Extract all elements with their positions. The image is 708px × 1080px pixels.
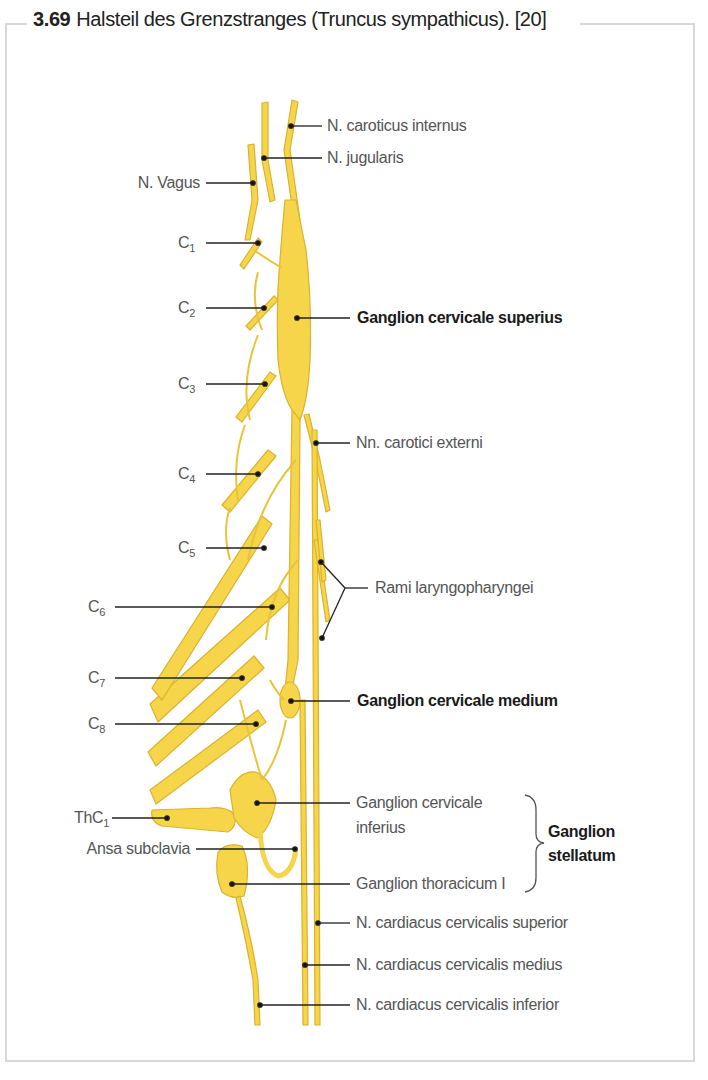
n-cardiacus-inferior-trunk	[236, 896, 260, 1025]
label-n-cardiacus-medius: N. cardiacus cervicalis medius	[356, 956, 562, 974]
label-c8: C8	[88, 715, 105, 738]
label-c1-sub: 1	[189, 242, 195, 254]
c3-nerve-root	[236, 372, 276, 422]
label-c6: C6	[88, 598, 105, 621]
label-n-cardiacus-superior: N. cardiacus cervicalis superior	[356, 914, 568, 932]
sympathetic-trunk	[284, 410, 300, 700]
label-thc1-base: ThC	[74, 809, 103, 826]
ganglion-cervicale-superius	[277, 200, 310, 420]
label-c7-base: C	[88, 669, 99, 686]
label-c3-base: C	[178, 375, 189, 392]
nerve-shapes	[148, 100, 330, 1025]
ganglion-thoracicum-i	[217, 845, 248, 897]
label-ganglion-cervicale-inferius-2: inferius	[356, 819, 405, 837]
label-c6-base: C	[88, 598, 99, 615]
label-thc1: ThC1	[74, 809, 109, 832]
label-c4-base: C	[178, 465, 189, 482]
label-c2-base: C	[178, 299, 189, 316]
label-c8-sub: 8	[99, 723, 105, 735]
label-n-cardiacus-inferior: N. cardiacus cervicalis inferior	[356, 996, 559, 1014]
c2-nerve-root	[246, 296, 278, 330]
label-ansa-subclavia: Ansa subclavia	[40, 840, 190, 858]
label-c1-base: C	[178, 234, 189, 251]
label-rami-laryngopharyngei: Rami laryngopharyngei	[375, 579, 533, 597]
label-c6-sub: 6	[99, 606, 105, 618]
label-ganglion-stellatum-1: Ganglion	[548, 823, 615, 841]
ganglion-cervicale-inferius	[230, 772, 276, 838]
label-c5: C5	[178, 539, 195, 562]
label-c8-base: C	[88, 715, 99, 732]
label-thc1-sub: 1	[103, 817, 109, 829]
ansa-subclavia	[260, 830, 296, 876]
label-c2-sub: 2	[189, 307, 195, 319]
n-cardiacus-superior-trunk	[312, 430, 320, 1025]
label-c5-sub: 5	[189, 547, 195, 559]
n-jugularis	[262, 102, 275, 202]
label-c1: C1	[178, 234, 195, 257]
label-ganglion-thoracicum: Ganglion thoracicum I	[356, 875, 505, 893]
label-c7: C7	[88, 669, 105, 692]
label-c4: C4	[178, 465, 195, 488]
label-n-caroticus-internus: N. caroticus internus	[327, 117, 467, 135]
label-c7-sub: 7	[99, 677, 105, 689]
label-c5-base: C	[178, 539, 189, 556]
label-c3: C3	[178, 375, 195, 398]
label-c3-sub: 3	[189, 383, 195, 395]
label-c4-sub: 4	[189, 473, 195, 485]
label-n-jugularis: N. jugularis	[327, 149, 403, 167]
thc1-nerve-root	[152, 808, 235, 832]
label-ganglion-cervicale-medium: Ganglion cervicale medium	[357, 692, 558, 710]
n-cardiacus-medius-trunk	[300, 700, 308, 1025]
vagus-nerve	[245, 144, 258, 240]
label-n-vagus: N. Vagus	[100, 174, 200, 192]
label-nn-carotici-externi: Nn. carotici externi	[356, 434, 483, 452]
label-c2: C2	[178, 299, 195, 322]
label-ganglion-cervicale-superius: Ganglion cervicale superius	[357, 309, 562, 327]
label-ganglion-stellatum-2: stellatum	[548, 847, 616, 865]
ganglion-stellatum-brace	[525, 795, 544, 892]
label-ganglion-cervicale-inferius-1: Ganglion cervicale	[356, 794, 482, 812]
